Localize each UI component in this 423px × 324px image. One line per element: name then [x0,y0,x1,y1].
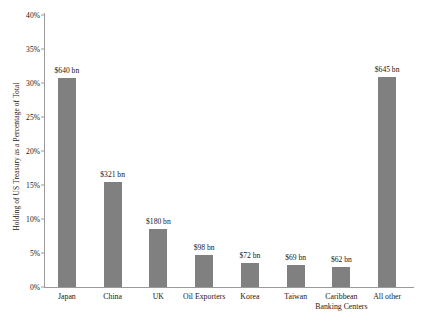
bar-group[interactable]: $321 bnChina [90,15,136,287]
bar[interactable] [241,263,259,287]
x-tick-label: China [103,292,122,302]
x-tick-label: Japan [58,292,76,302]
bar-group[interactable]: $72 bnKorea [227,15,273,287]
bar-value-label: $321 bn [100,170,125,179]
x-tick-label: CaribbeanBanking Centers [315,292,367,312]
x-tick-label-line1: China [103,292,122,301]
bar[interactable] [287,265,305,287]
x-tick-label-line1: UK [153,292,164,301]
bar-value-label: $180 bn [146,217,171,226]
bar-group[interactable]: $62 bnCaribbeanBanking Centers [319,15,365,287]
bar[interactable] [195,255,213,287]
bar-value-label: $72 bn [239,251,260,260]
bar-group[interactable]: $69 bnTaiwan [273,15,319,287]
bar[interactable] [378,77,396,287]
bar-value-label: $645 bn [375,65,400,74]
y-tick-label: 35% [26,45,40,54]
bar[interactable] [58,78,76,287]
bar-series: $640 bnJapan$321 bnChina$180 bnUK$98 bnO… [44,15,410,287]
y-tick-label: 30% [26,79,40,88]
x-tick-label-line1: Korea [240,292,259,301]
x-tick-label-line1: Taiwan [284,292,307,301]
y-tick-label: 10% [26,215,40,224]
y-tick-label: 25% [26,113,40,122]
y-tick-label: 20% [26,147,40,156]
bar[interactable] [104,182,122,287]
x-tick-label-line1: All other [373,292,401,301]
plot-area: 40%35%30%25%20%15%10%5%0% $640 bnJapan$3… [44,15,410,287]
bar[interactable] [149,229,167,287]
x-tick-label-line1: Caribbean [325,292,357,301]
y-tick-label: 0% [30,283,40,292]
bar-value-label: $640 bn [55,66,80,75]
x-tick-label: Korea [240,292,259,302]
y-tick-label: 15% [26,181,40,190]
x-axis-line [44,287,414,288]
bar-value-label: $69 bn [285,253,306,262]
bar[interactable] [332,267,350,287]
bar-group[interactable]: $640 bnJapan [44,15,90,287]
bar-value-label: $62 bn [331,255,352,264]
x-tick-label-line1: Oil Exporters [183,292,225,301]
y-tick-label: 40% [26,11,40,20]
x-tick-label-line1: Japan [58,292,76,301]
y-tick-label: 5% [30,249,40,258]
bar-group[interactable]: $645 bnAll other [364,15,410,287]
y-axis-title: Holding of US Treasury as a Percentage o… [12,57,21,257]
bar-chart: Holding of US Treasury as a Percentage o… [0,0,423,324]
x-tick-label-line2: Banking Centers [315,302,367,312]
x-tick-label: UK [153,292,164,302]
x-tick-label: Oil Exporters [183,292,225,302]
bar-value-label: $98 bn [194,243,215,252]
x-tick-label: Taiwan [284,292,307,302]
bar-group[interactable]: $98 bnOil Exporters [181,15,227,287]
x-tick-label: All other [373,292,401,302]
bar-group[interactable]: $180 bnUK [136,15,182,287]
